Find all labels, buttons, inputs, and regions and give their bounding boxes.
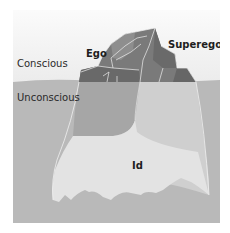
label-unconscious: Unconscious	[17, 93, 80, 103]
label-id: Id	[132, 161, 143, 171]
iceberg-diagram: Conscious Unconscious Ego Superego Id	[13, 10, 220, 223]
label-superego: Superego	[168, 40, 220, 50]
label-ego: Ego	[86, 49, 107, 59]
label-conscious: Conscious	[17, 59, 68, 69]
